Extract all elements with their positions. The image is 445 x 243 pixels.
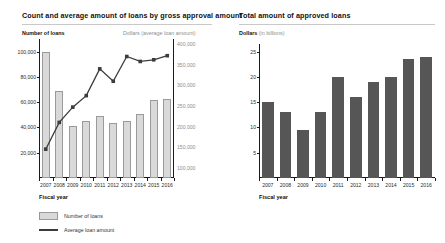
bar [385, 77, 397, 178]
y-tick-label: 20,000 [20, 150, 36, 156]
legend-label-number-of-loans: Number of loans [64, 213, 103, 219]
x-tick-mark [39, 178, 40, 181]
x-tick-mark [80, 178, 81, 181]
line-series-average-loan-amount [39, 39, 174, 178]
title-divider-right [239, 24, 435, 25]
x-tick-label: 2010 [80, 182, 94, 188]
x-tick-mark [107, 178, 108, 181]
line-marker [44, 147, 48, 151]
x-tick-mark [312, 178, 313, 181]
line-marker [71, 105, 75, 109]
y-tick-mark [257, 102, 260, 103]
x-tick-mark [417, 178, 418, 181]
x-axis-title-right: Fiscal year [259, 194, 288, 200]
y2-tick-label: 100,000 [177, 165, 195, 171]
bar [420, 57, 432, 178]
y2-tick-label: 250,000 [177, 103, 195, 109]
x-tick-mark [347, 178, 348, 181]
y-tick-label: 60,000 [20, 99, 36, 105]
x-tick-label: 2009 [294, 182, 312, 188]
bar-swatch-icon [39, 212, 58, 220]
bar [262, 102, 274, 178]
y-tick-label: 40,000 [20, 124, 36, 130]
bar [280, 112, 292, 178]
y-axis-caption-left: Number of loans [22, 30, 65, 36]
bar [350, 97, 362, 178]
bar [403, 59, 415, 178]
x-tick-mark [259, 178, 260, 181]
line-marker [125, 55, 129, 59]
x-tick-label: 2015 [147, 182, 161, 188]
y-axis-caption-right-bold: Dollars [239, 30, 257, 36]
y2-tick-label: 400,000 [177, 41, 195, 47]
line-marker [138, 60, 142, 64]
line-marker [57, 121, 61, 125]
x-axis-title-left: Fiscal year [39, 194, 68, 200]
bar [297, 130, 309, 178]
y2-tick-label: 200,000 [177, 124, 195, 130]
y-axis-caption-right: Dollars (in billions) [239, 30, 285, 36]
x-tick-label: 2007 [39, 182, 53, 188]
y2-tick-label: 150,000 [177, 144, 195, 150]
x-tick-mark [277, 178, 278, 181]
x-tick-mark [382, 178, 383, 181]
line-marker [152, 58, 156, 62]
x-tick-label: 2016 [417, 182, 435, 188]
page-title-right: Total amount of approved loans [239, 11, 350, 20]
line-marker [84, 94, 88, 98]
x-tick-label: 2012 [347, 182, 365, 188]
x-tick-mark [174, 178, 175, 181]
x-tick-label: 2016 [161, 182, 175, 188]
plot-area-left: 20,00040,00060,00080,000100,000 100,0001… [39, 39, 174, 178]
x-tick-label: 2013 [120, 182, 134, 188]
line-marker [98, 67, 102, 71]
x-tick-mark [120, 178, 121, 181]
bar [368, 82, 380, 178]
x-tick-label: 2012 [107, 182, 121, 188]
y-tick-label: 25 [250, 49, 256, 55]
y-axis-caption-right-muted: (in billions) [257, 30, 284, 36]
x-tick-mark [294, 178, 295, 181]
x-tick-mark [53, 178, 54, 181]
legend-item-number-of-loans: Number of loans [39, 210, 114, 221]
x-tick-label: 2009 [66, 182, 80, 188]
bar-series-total-approved-loans [259, 44, 435, 178]
y-tick-mark [37, 153, 40, 154]
y-tick-label: 100,000 [18, 49, 36, 55]
x-tick-label: 2014 [134, 182, 148, 188]
y-tick-mark [37, 127, 40, 128]
legend-label-average-loan-amount: Average loan amount [64, 227, 114, 233]
x-tick-label: 2008 [277, 182, 295, 188]
y-tick-label: 10 [250, 124, 256, 130]
y-tick-mark [257, 153, 260, 154]
page-title-left: Count and average amount of loans by gro… [22, 11, 242, 20]
title-divider-left [22, 24, 212, 25]
line-swatch-icon [39, 229, 58, 231]
x-tick-mark [134, 178, 135, 181]
y-tick-mark [257, 52, 260, 53]
y2-tick-label: 350,000 [177, 62, 195, 68]
chart-page: Count and average amount of loans by gro… [0, 0, 445, 243]
bar [332, 77, 344, 178]
line-marker [111, 79, 115, 83]
x-tick-mark [400, 178, 401, 181]
legend-left: Number of loans Average loan amount [39, 210, 114, 238]
line-marker [165, 54, 169, 58]
y-tick-mark [257, 77, 260, 78]
legend-item-average-loan-amount: Average loan amount [39, 224, 114, 235]
x-tick-mark [93, 178, 94, 181]
y-tick-label: 80,000 [20, 74, 36, 80]
x-tick-label: 2011 [329, 182, 347, 188]
x-tick-label: 2008 [53, 182, 67, 188]
x-tick-label: 2007 [259, 182, 277, 188]
panel-total-approved-loans: Total amount of approved loans Dollars (… [222, 0, 445, 243]
x-tick-mark [147, 178, 148, 181]
x-tick-mark [161, 178, 162, 181]
line-path [46, 56, 168, 149]
panel-loan-count-average: Count and average amount of loans by gro… [0, 0, 222, 243]
y-tick-mark [37, 102, 40, 103]
y-tick-label: 20 [250, 74, 256, 80]
y-tick-mark [37, 77, 40, 78]
y-tick-mark [37, 52, 40, 53]
bar [315, 112, 327, 178]
